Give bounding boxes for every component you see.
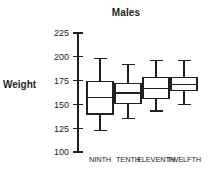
y-tick-label-group: 100125150175200225 <box>54 28 69 157</box>
y-tick-label: 225 <box>54 28 69 38</box>
boxplot-eleventh <box>143 61 169 111</box>
y-tick-label: 100 <box>54 147 69 157</box>
y-tick-label: 150 <box>54 100 69 110</box>
box-group <box>87 59 197 130</box>
y-tick-label: 175 <box>54 76 69 86</box>
boxplot-ninth <box>87 59 113 130</box>
category-label: NINTH <box>89 155 111 164</box>
boxplot-tenth <box>115 64 141 118</box>
category-label: TWELFTH <box>167 155 201 164</box>
boxplot-twelfth <box>171 61 197 105</box>
plot-area: 100125150175200225 NINTHTENTHELEVENTHTWE… <box>0 0 224 169</box>
y-tick-label: 200 <box>54 52 69 62</box>
boxplot-figure: Males Weight 100125150175200225 NINTHTEN… <box>0 0 224 169</box>
category-label-group: NINTHTENTHELEVENTHTWELFTH <box>89 155 201 164</box>
y-tick-label: 125 <box>54 124 69 134</box>
